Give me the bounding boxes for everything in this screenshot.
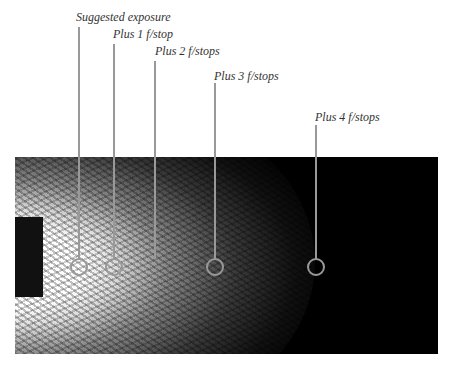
label-plus-3: Plus 3 f/stops <box>214 69 279 84</box>
callout-line-3 <box>214 83 216 259</box>
callout-line-4 <box>315 125 317 259</box>
callout-circle-0 <box>70 258 88 276</box>
callout-circle-3 <box>206 258 224 276</box>
label-plus-1: Plus 1 f/stop <box>113 27 173 42</box>
callout-line-2 <box>154 61 156 259</box>
callout-circle-1 <box>105 258 123 276</box>
label-suggested-exposure: Suggested exposure <box>76 10 171 25</box>
callout-line-1 <box>113 44 115 259</box>
callout-circle-4 <box>307 258 325 276</box>
light-source <box>15 217 43 297</box>
label-plus-4: Plus 4 f/stops <box>315 110 380 125</box>
label-plus-2: Plus 2 f/stops <box>155 44 220 59</box>
callout-line-0 <box>78 27 80 259</box>
